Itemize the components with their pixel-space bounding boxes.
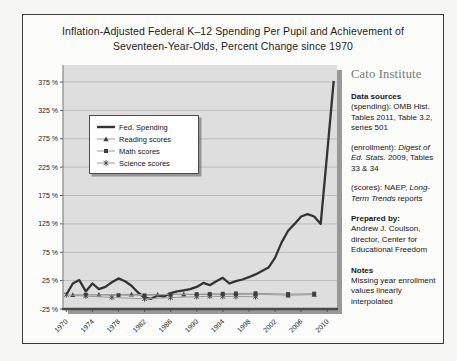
- x-tick-label: 1998: [236, 318, 252, 334]
- y-tick-label: 175 %: [38, 192, 58, 199]
- y-tick-label: 375 %: [38, 79, 58, 86]
- side-section: NotesMissing year enrollment values line…: [351, 265, 441, 308]
- plot-area: [63, 65, 337, 309]
- chart-legend: Fed. SpendingReading scoresMath scoresSc…: [89, 115, 199, 174]
- y-tick-label: 275 %: [38, 135, 58, 142]
- y-tick-label: -25 %: [40, 306, 58, 313]
- triangle-legend-icon: [96, 134, 116, 144]
- x-tick-label: 1974: [79, 318, 95, 334]
- y-tick-label: 225 %: [38, 164, 58, 171]
- square-marker: [286, 292, 290, 296]
- legend-label: Science scores: [119, 159, 170, 168]
- side-paragraph: (scores): NAEP, Long-Term Trends reports: [351, 183, 441, 204]
- line-legend-icon: [96, 122, 116, 132]
- side-paragraph: (enrollment): Digest of Ed. Stats. 2009,…: [351, 143, 441, 175]
- side-section: Data sources(spending): OMB Hist. Tables…: [351, 91, 441, 204]
- y-tick-label: 125 %: [38, 220, 58, 227]
- square-legend-icon: [96, 146, 116, 156]
- x-tick-label: 1990: [183, 318, 199, 334]
- side-paragraph: Andrew J. Coulson, director, Center for …: [351, 224, 441, 256]
- x-tick-label: 1982: [131, 318, 147, 334]
- y-tick-label: 325 %: [38, 107, 58, 114]
- brand-text: Cato Institute: [351, 67, 441, 82]
- legend-label: Fed. Spending: [119, 123, 168, 132]
- y-tick-label: 75 %: [42, 249, 58, 256]
- x-tick-label: 2002: [262, 318, 278, 334]
- y-tick-label: 25 %: [42, 277, 58, 284]
- side-section-heading: Prepared by:: [351, 213, 441, 224]
- side-section: Prepared by:Andrew J. Coulson, director,…: [351, 213, 441, 256]
- x-tick-label: 1978: [105, 318, 121, 334]
- x-tick-label: 2010: [314, 318, 330, 334]
- square-marker: [104, 149, 108, 153]
- side-section-heading: Data sources: [351, 91, 441, 102]
- star-legend-icon: [96, 158, 116, 168]
- legend-item-math-scores: Math scores: [96, 145, 192, 157]
- side-panel: Cato Institute Data sources(spending): O…: [351, 67, 441, 316]
- legend-label: Reading scores: [119, 135, 171, 144]
- square-marker: [312, 292, 316, 296]
- side-sections: Data sources(spending): OMB Hist. Tables…: [351, 91, 441, 307]
- chart-frame: Inflation-Adjusted Federal K–12 Spending…: [22, 14, 444, 344]
- legend-item-science-scores: Science scores: [96, 157, 192, 169]
- side-paragraph: Missing year enrollment values linearly …: [351, 276, 441, 308]
- x-tick-label: 2006: [288, 318, 304, 334]
- x-tick-label: 1970: [53, 318, 69, 334]
- x-tick-label: 1994: [210, 318, 226, 334]
- legend-item-fed-spending: Fed. Spending: [96, 121, 192, 133]
- x-tick-label: 1986: [157, 318, 173, 334]
- side-section-heading: Notes: [351, 265, 441, 276]
- legend-item-reading-scores: Reading scores: [96, 133, 192, 145]
- square-marker: [117, 293, 121, 297]
- side-paragraph: (spending): OMB Hist. Tables 2011, Table…: [351, 102, 441, 134]
- legend-label: Math scores: [119, 147, 160, 156]
